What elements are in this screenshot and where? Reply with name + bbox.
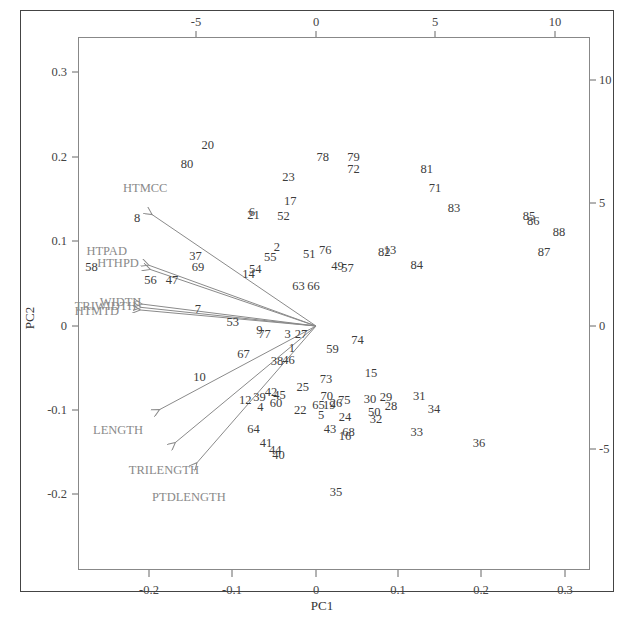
observation-label: 53: [227, 315, 240, 329]
observation-label: 83: [448, 201, 461, 215]
variable-label: HTHPD: [97, 256, 139, 270]
right-tick-label: 0: [599, 319, 605, 333]
observation-label: 71: [429, 181, 442, 195]
observation-label: 12: [239, 393, 252, 407]
observation-label: 56: [144, 273, 157, 287]
observation-label: 54: [249, 262, 262, 276]
y-tick-label: 0.2: [51, 150, 67, 164]
observation-label: 51: [303, 247, 316, 261]
observation-label: 30: [364, 392, 377, 406]
observation-label: 88: [553, 225, 566, 239]
observation-label: 10: [193, 370, 206, 384]
observation-label: 63: [292, 279, 305, 293]
observation-label: 66: [307, 279, 320, 293]
biplot-svg: -0.2 -0.1 0 0.1 0.2 0.3 PC1 0.3 0.2 0.1 …: [0, 0, 635, 626]
x-tick-label: 0.2: [473, 583, 489, 597]
right-axis: 10 5 0 -5: [590, 73, 612, 456]
observation-label: 34: [428, 402, 441, 416]
y-tick-label: -0.1: [47, 403, 67, 417]
observation-label: 20: [202, 138, 215, 152]
top-tick-label: 5: [432, 15, 438, 29]
observation-label: 78: [316, 150, 329, 164]
observation-label: 81: [420, 162, 433, 176]
loading-arrow: [152, 215, 316, 326]
observation-label: 55: [264, 250, 277, 264]
observation-label: 68: [342, 425, 355, 439]
variable-label: HTMTD: [75, 304, 119, 318]
observation-label: 13: [384, 243, 397, 257]
y-tick-label: 0.1: [51, 234, 67, 248]
top-tick-label: -5: [191, 15, 201, 29]
observation-label: 25: [296, 380, 309, 394]
observation-label: 17: [284, 194, 297, 208]
top-axis: -5 0 5 10: [191, 15, 561, 37]
y-axis-title: PC2: [22, 307, 37, 329]
observation-label: 35: [330, 485, 343, 499]
x-tick-label: 0.3: [557, 583, 573, 597]
bottom-axis: -0.2 -0.1 0 0.1 0.2 0.3 PC1: [139, 570, 573, 613]
observation-label: 64: [247, 422, 260, 436]
observation-label: 22: [294, 403, 307, 417]
right-tick-label: 5: [599, 196, 605, 210]
right-tick-label: 10: [599, 73, 612, 87]
observation-label: 87: [538, 245, 551, 259]
observation-label: 27: [295, 327, 308, 341]
variable-label: LENGTH: [93, 423, 143, 437]
variable-label: HTMCC: [123, 181, 167, 195]
y-tick-label: 0.3: [51, 65, 67, 79]
x-tick-label: -0.2: [139, 583, 159, 597]
observation-label: 58: [85, 260, 98, 274]
observation-label: 84: [410, 258, 423, 272]
observation-label: 40: [272, 448, 285, 462]
loading-arrow: [160, 326, 316, 410]
x-tick-label: -0.1: [222, 583, 242, 597]
observation-label: 52: [277, 209, 290, 223]
left-axis: 0.3 0.2 0.1 0 -0.1 -0.2 PC2: [22, 65, 78, 501]
observation-label: 47: [166, 273, 179, 287]
observation-label: 72: [347, 162, 360, 176]
observation-label: 77: [258, 327, 271, 341]
variable-label: TRILENGTH: [129, 463, 199, 477]
observation-label: 31: [413, 389, 426, 403]
observation-label: 43: [324, 422, 337, 436]
observation-label: 74: [351, 333, 364, 347]
top-tick-label: 10: [549, 15, 562, 29]
right-tick-label: -5: [599, 442, 609, 456]
observation-label: 57: [341, 261, 354, 275]
x-tick-label: 0.1: [390, 583, 406, 597]
observation-label: 15: [365, 366, 378, 380]
observation-label: 8: [134, 211, 140, 225]
variable-label: PTDLENGTH: [152, 490, 226, 504]
observation-label: 76: [319, 243, 332, 257]
observation-label: 75: [338, 393, 351, 407]
observation-label: 21: [247, 208, 260, 222]
observation-label: 46: [282, 353, 295, 367]
top-tick-label: 0: [313, 15, 319, 29]
x-tick-label: 0: [313, 583, 319, 597]
y-tick-label: -0.2: [47, 487, 67, 501]
observation-label: 59: [326, 342, 339, 356]
observation-label: 86: [527, 214, 540, 228]
observation-label: 4: [257, 400, 264, 414]
observation-label: 28: [385, 399, 398, 413]
observation-label: 69: [192, 260, 205, 274]
observation-label: 73: [320, 372, 333, 386]
observation-label: 80: [181, 157, 194, 171]
observation-label: 24: [339, 410, 352, 424]
x-axis-title: PC1: [311, 598, 333, 613]
observation-label: 33: [410, 425, 423, 439]
observation-label: 23: [282, 170, 295, 184]
observation-label: 32: [370, 412, 383, 426]
observation-label: 36: [473, 436, 486, 450]
observation-label: 60: [270, 396, 283, 410]
y-tick-label: 0: [61, 319, 67, 333]
observation-label: 67: [237, 347, 250, 361]
observation-label: 3: [285, 327, 291, 341]
observation-label: 7: [195, 302, 201, 316]
observation-label: 5: [318, 408, 324, 422]
